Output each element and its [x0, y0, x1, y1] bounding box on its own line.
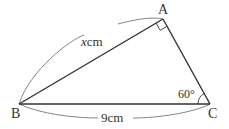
angle-c-label: 60°: [178, 87, 195, 101]
side-ab: [19, 19, 163, 104]
vertex-label-b: B: [11, 106, 20, 121]
ab-length-label: xcm: [80, 34, 103, 49]
vertex-label-a: A: [158, 2, 169, 17]
bc-length-label: 9cm: [101, 110, 123, 125]
vertex-label-c: C: [208, 106, 217, 121]
ab-unit: cm: [87, 34, 103, 49]
triangle-diagram: A B C xcm 9cm 60°: [0, 0, 229, 129]
triangle-figure: A B C xcm 9cm 60°: [0, 0, 229, 129]
angle-c-arc: [198, 94, 204, 105]
